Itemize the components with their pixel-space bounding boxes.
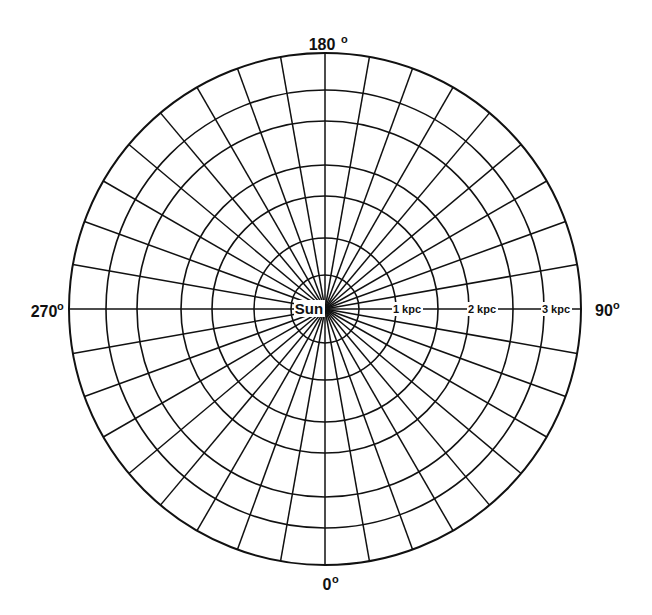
distance-label: 3 kpc bbox=[541, 302, 572, 316]
degree-symbol: o bbox=[57, 300, 64, 312]
distance-label-text: 3 kpc bbox=[542, 303, 570, 315]
distance-label: 2 kpc bbox=[467, 302, 498, 316]
distance-label-text: 2 kpc bbox=[468, 303, 496, 315]
distance-label: 1 kpc bbox=[392, 302, 423, 316]
angle-90-label: 90 bbox=[595, 302, 613, 319]
angle-label-left: 270 o bbox=[31, 300, 64, 320]
sun-label: Sun bbox=[294, 300, 325, 317]
angle-270-label: 270 bbox=[31, 303, 58, 320]
distance-label-text: 1 kpc bbox=[393, 303, 421, 315]
angle-label-bottom: 0 o bbox=[323, 573, 339, 593]
angle-0-label: 0 bbox=[323, 576, 332, 593]
angle-label-top: 180 o bbox=[309, 33, 348, 53]
degree-symbol: o bbox=[613, 299, 620, 311]
degree-symbol: o bbox=[332, 573, 339, 585]
angle-180-label: 180 bbox=[309, 36, 336, 53]
angle-label-right: 90 o bbox=[595, 299, 620, 319]
sun-label-text: Sun bbox=[295, 300, 323, 317]
degree-symbol: o bbox=[341, 33, 348, 45]
polar-grid-diagram: 1 kpc2 kpc3 kpc Sun 180 o 0 o 270 o 90 o bbox=[0, 0, 652, 615]
distance-labels: 1 kpc2 kpc3 kpc bbox=[392, 302, 572, 316]
